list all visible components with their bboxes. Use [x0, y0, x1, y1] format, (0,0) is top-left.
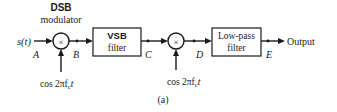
- vsb-filter-line1: VSB: [107, 30, 127, 41]
- output-label: Output: [287, 36, 315, 47]
- point-c-label: C: [145, 49, 152, 60]
- lowpass-filter-line2: filter: [227, 43, 246, 53]
- dot-icon: [193, 40, 196, 43]
- lowpass-filter-line1: Low-pass: [218, 31, 255, 41]
- vsb-filter-line2: filter: [108, 43, 127, 53]
- arrowhead-icon: [86, 38, 93, 44]
- input-label: s(t): [17, 36, 32, 48]
- arrowhead-icon: [205, 38, 212, 44]
- point-e-label: E: [265, 49, 272, 60]
- arrowhead-icon: [58, 49, 64, 56]
- multiply-icon: ×: [173, 37, 178, 47]
- dot-icon: [267, 40, 270, 43]
- arrowhead-icon: [173, 49, 179, 56]
- multiply-icon: ×: [58, 37, 63, 47]
- arrowhead-icon: [161, 38, 168, 44]
- subfigure-label: (a): [157, 94, 168, 106]
- point-d-label: D: [195, 49, 204, 60]
- dsb-title: DSB: [50, 2, 71, 13]
- arrowhead-icon: [46, 38, 53, 44]
- arrowhead-icon: [278, 38, 285, 44]
- point-b-label: B: [73, 49, 79, 60]
- carrier1-label: cos 2πfct: [40, 79, 74, 91]
- point-a-label: A: [32, 49, 40, 60]
- dsb-subtitle: modulator: [40, 14, 82, 25]
- vsb-block-diagram: DSB modulator s(t) A × cos 2πfct B VSB f…: [0, 0, 337, 112]
- dot-icon: [147, 40, 150, 43]
- dot-icon: [76, 40, 79, 43]
- carrier2-label: cos 2πfct: [167, 77, 201, 89]
